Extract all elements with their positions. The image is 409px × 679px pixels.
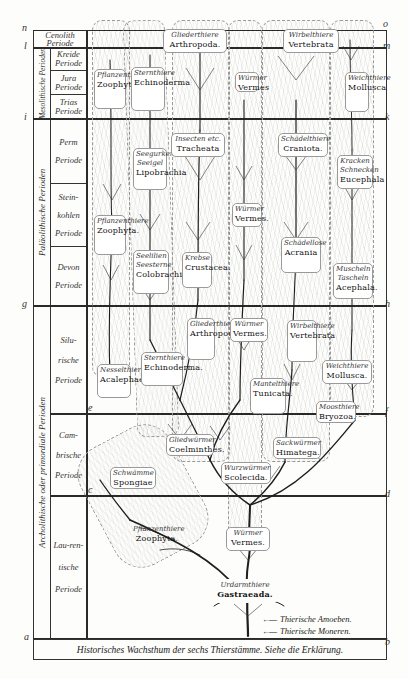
label-tunicata: Mantelthiere Tunicata.	[250, 378, 286, 414]
label-echinoderma-low: Sternthiere Echinoderma.	[141, 352, 183, 386]
label-arthropoda-low: Gliederthiere Arthropoda.	[187, 318, 215, 360]
label-spongiae: Schwämme Spongiae	[110, 467, 156, 489]
label-lipobrachia: Seegurken Seeigel Lipobrachia	[133, 148, 167, 190]
legend-amoeben: ←— Thierische Amoeben.	[262, 614, 352, 624]
label-himatega: Sackwürmer Himatega.	[273, 437, 321, 459]
label-zoophyta-mid: Pflanzenthiere Zoophyta.	[94, 215, 126, 255]
legend-moneren: ←— Thierische Moneren.	[262, 626, 351, 636]
label-vertebrata-top: Wirbelthiere Vertebrata	[283, 29, 339, 53]
label-vertebrata-low: Wirbelthiere Vertebrata	[287, 320, 317, 362]
legend-moneren-label: Thierische Moneren.	[280, 626, 351, 636]
label-echinoderma-top: Sternthiere Echinoderma	[131, 67, 165, 111]
label-vermes-root: Würmer Vermes.	[226, 527, 270, 551]
label-craniota: Schädelthiere Craniota.	[278, 133, 328, 157]
label-gastraeada: Urdarmthiere Gastraeada.	[212, 579, 278, 603]
label-crustacea: Krebse Crustacea.	[182, 252, 212, 288]
label-scolecida: Wurzwürmer Scolecida.	[221, 462, 271, 484]
arrow-left-icon: ←—	[262, 615, 276, 624]
label-coelminthes: Gliedwürmer Coelminthes.	[166, 434, 214, 456]
label-bryozoa: Moosthiere Bryozoa.	[316, 401, 356, 423]
label-tracheata: Insecten etc. Tracheata	[171, 133, 225, 157]
arrow-left-icon: ←—	[262, 627, 276, 636]
label-mollusca-top: Weichthiere Mollusca	[345, 72, 369, 112]
label-zoophyta-top: Pflanzenthiere Zoophyta	[94, 69, 126, 109]
label-acephala: Muscheln Tascheln Acephala.	[333, 263, 373, 299]
label-vermes-low: Würmer Vermes.	[230, 318, 268, 342]
label-acrania: Schädellose Acrania	[281, 237, 321, 273]
legend-amoeben-label: Thierische Amoeben.	[280, 614, 352, 624]
label-acalephae: Nesselthiere Acalephae.	[97, 364, 131, 398]
label-arthropoda-top: Gliederthiere Arthropoda.	[163, 29, 227, 53]
label-vermes-top: Würmer Vermes	[235, 72, 259, 92]
label-vermes-mid: Würmer Vermes.	[232, 203, 262, 227]
label-colobrachia: Seelilien Seesterne Colobrachia	[133, 250, 169, 294]
figure-caption: Historisches Wachsthum der sechs Thierst…	[33, 639, 387, 660]
label-zoophyta-low: Pflanzenthiere Zoophyta.	[130, 523, 184, 545]
label-eucephala: Kracken Schnecken Eucephala	[337, 155, 373, 189]
label-mollusca-low: Weichthiere Mollusca.	[322, 360, 372, 384]
